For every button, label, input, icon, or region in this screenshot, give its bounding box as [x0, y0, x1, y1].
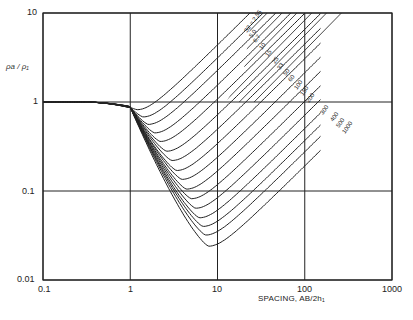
y-axis-label: ρa / ρ₁: [6, 62, 29, 71]
y-tick-10: 10: [27, 7, 37, 17]
chart-canvas: S2 = 2.555.06.71015253350601001502003004…: [0, 0, 413, 320]
x-tick-100: 100: [297, 284, 312, 294]
x-tick-0-1: 0.1: [38, 284, 51, 294]
x-tick-1000: 1000: [382, 284, 402, 294]
y-tick-0-1: 0.1: [22, 186, 35, 196]
y-tick-1: 1: [33, 96, 38, 106]
curve-label: 10: [258, 41, 267, 50]
y-tick-0-01: 0.01: [17, 274, 35, 284]
curve-label: 15: [264, 48, 273, 57]
x-tick-1: 1: [128, 284, 133, 294]
x-tick-10: 10: [212, 284, 222, 294]
x-axis-label: SPACING, AB/2h₁: [258, 294, 325, 303]
